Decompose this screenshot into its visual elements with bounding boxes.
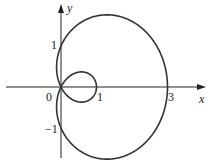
plot-canvas: y x 0 1 3 1 −1 [0,0,212,161]
origin-label: 0 [46,90,52,104]
y-tick-neg1-label: −1 [45,122,58,136]
y-axis-arrow-icon [58,4,64,13]
x-axis-label: x [198,92,205,106]
limacon-plot: y x 0 1 3 1 −1 [0,0,212,161]
x-tick-3-label: 3 [168,90,174,104]
y-tick-1-label: 1 [51,38,57,52]
x-tick-1-label: 1 [97,90,103,104]
x-axis-arrow-icon [197,84,206,90]
y-axis-label: y [66,1,73,15]
